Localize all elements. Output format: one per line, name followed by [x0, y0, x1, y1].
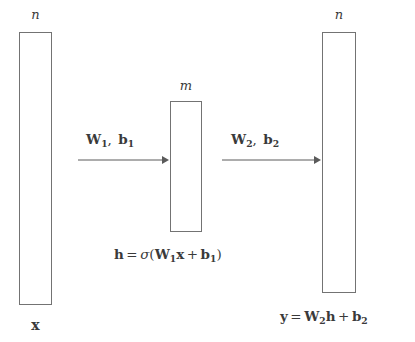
- edge2-comma: ,: [253, 131, 259, 147]
- output-vector-rect: [322, 32, 356, 293]
- output-eq-weight: W: [304, 308, 319, 324]
- edge1-weight-bias-label: W1, b1: [86, 132, 134, 147]
- edge2-weight-symbol: W: [231, 131, 246, 147]
- hidden-eq-lhs: h: [114, 246, 124, 262]
- hidden-equation: h=σ(W1x+b1): [114, 248, 222, 262]
- edge1-comma: ,: [108, 131, 114, 147]
- hidden-eq-close-paren: ): [216, 246, 221, 262]
- hidden-eq-plus: +: [184, 246, 200, 262]
- output-eq-weight-subscript: 2: [319, 315, 325, 326]
- hidden-eq-bias-subscript: 1: [210, 253, 216, 264]
- output-eq-lhs: y: [280, 308, 288, 324]
- edge1-bias-symbol: b: [118, 131, 127, 147]
- edge2-bias-symbol: b: [263, 131, 272, 147]
- hidden-vector-rect: [170, 101, 202, 232]
- hidden-eq-equals: =: [124, 246, 140, 262]
- output-eq-equals: =: [288, 308, 304, 324]
- output-eq-plus: +: [336, 308, 352, 324]
- input-vector-rect: [19, 32, 52, 305]
- output-eq-bias: b: [352, 308, 361, 324]
- edge2-bias-subscript: 2: [273, 138, 279, 149]
- input-vector-label: x: [19, 318, 52, 332]
- hidden-eq-sigma: σ: [140, 246, 149, 262]
- hidden-dimension-label: m: [170, 79, 202, 92]
- output-dimension-label: n: [322, 8, 356, 21]
- diagram-canvas: n x W1, b1 m h=σ(W1x+b1) W2, b2 n y=W2h+…: [0, 0, 415, 342]
- hidden-eq-weight-subscript: 1: [170, 253, 176, 264]
- hidden-eq-weight: W: [155, 246, 170, 262]
- output-eq-hidden: h: [326, 308, 336, 324]
- edge1-weight-symbol: W: [86, 131, 101, 147]
- edge1-arrow: [78, 152, 170, 168]
- output-equation: y=W2h+b2: [280, 310, 368, 324]
- edge1-weight-subscript: 1: [101, 138, 107, 149]
- edge2-arrow: [222, 152, 322, 168]
- edge2-weight-subscript: 2: [246, 138, 252, 149]
- input-dimension-label: n: [19, 8, 52, 21]
- hidden-eq-bias: b: [201, 246, 210, 262]
- edge1-bias-subscript: 1: [128, 138, 134, 149]
- edge2-weight-bias-label: W2, b2: [231, 132, 279, 147]
- output-eq-bias-subscript: 2: [361, 315, 367, 326]
